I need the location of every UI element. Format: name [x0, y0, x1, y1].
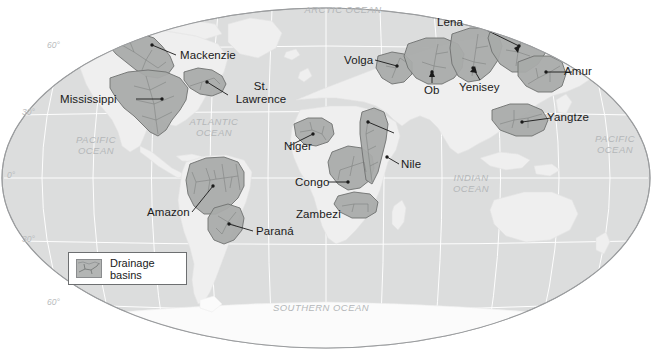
basin-label-nile: Nile	[401, 158, 421, 171]
basin-label-parana: Paraná	[256, 225, 294, 238]
basin-label-niger: Niger	[284, 140, 312, 153]
basin-label-amazon: Amazon	[147, 206, 190, 219]
ocean-label-arctic: ARCTIC OCEAN	[283, 4, 403, 15]
graticule-label-lat-0: 0°	[7, 170, 15, 180]
basin-label-mackenzie: Mackenzie	[180, 49, 236, 62]
basin-label-volga: Volga	[344, 54, 373, 67]
ocean-label-southern: SOUTHERN OCEAN	[256, 302, 386, 313]
ocean-label-atlantic: ATLANTIC OCEAN	[183, 116, 245, 138]
legend-label: Drainage basins	[110, 257, 186, 281]
drainage-basin-swatch	[76, 259, 102, 278]
basin-label-st-lawrence: St. Lawrence	[230, 80, 292, 105]
basin-label-zambezi: Zambezi	[296, 208, 341, 221]
basin-label-congo: Congo	[295, 176, 329, 189]
basin-label-yenisey: Yenisey	[459, 81, 500, 94]
basin-label-lena: Lena	[437, 16, 463, 29]
basin-label-amur: Amur	[564, 65, 592, 78]
ocean-label-pacific-east: PACIFIC OCEAN	[586, 133, 644, 155]
map-legend: Drainage basins	[68, 252, 187, 285]
basin-label-mississippi: Mississippi	[60, 93, 117, 106]
ocean-label-pacific-west: PACIFIC OCEAN	[66, 134, 126, 156]
graticule-label-lat-30s: 30°	[22, 234, 35, 244]
graticule-label-lat-60n: 60°	[47, 40, 60, 50]
graticule-label-lat-60s: 60°	[47, 297, 60, 307]
world-drainage-basin-map: 60° 30° 0° 30° 60° ARCTIC OCEAN PACIFIC …	[0, 0, 652, 355]
basin-label-yangtze: Yangtze	[547, 111, 589, 124]
basin-label-ob: Ob	[424, 84, 440, 97]
graticule-label-lat-30n: 30°	[22, 107, 35, 117]
ocean-label-indian: INDIAN OCEAN	[443, 172, 499, 194]
